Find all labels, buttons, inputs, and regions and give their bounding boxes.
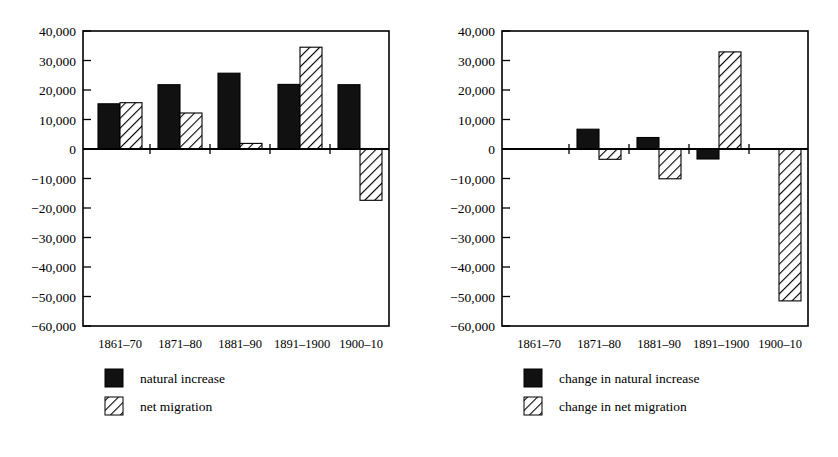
bar-hatch-1861-70 [120,103,142,149]
bar-solid-1881-90 [637,138,659,150]
y-tick-label: 20,000 [458,83,495,98]
y-tick-label: 0 [69,142,76,157]
bar-hatch-1891-1900 [300,47,322,149]
y-tick-label: 30,000 [39,54,76,69]
y-tick-label: 40,000 [458,24,495,39]
bars-change-natural-increase [577,129,719,159]
bar-hatch-1900-10 [360,149,382,200]
y-tick-label: 30,000 [458,54,495,69]
bar-hatch-1891-1900 [719,52,741,149]
x-tick-label-1881-90: 1881–90 [218,337,262,351]
legend-swatch-natural-increase [105,369,123,387]
y-tick-label: 20,000 [39,83,76,98]
y-tick-label: −20,000 [31,201,76,216]
y-tick-label: −10,000 [450,172,495,187]
legend-swatch-change-natural-increase [524,369,542,387]
y-tick-label: −10,000 [31,172,76,187]
bar-solid-1881-90 [218,73,240,149]
y-tick-label: −60,000 [450,319,495,334]
y-axis-labels: 40,000 30,000 20,000 10,000 0 −10,000 −2… [31,24,76,334]
legend-swatch-change-net-migration [524,397,542,415]
bar-hatch-1871-80 [599,149,621,159]
bar-solid-1861-70 [98,104,120,149]
x-tick-label-1871-80: 1871–80 [158,337,202,351]
x-tick-label-1900-10: 1900–10 [758,337,802,351]
y-axis-ticks [502,31,510,326]
bar-hatch-1871-80 [180,113,202,149]
bars-change-net-migration [599,52,801,301]
legend-label-natural-increase: natural increase [140,371,225,386]
x-tick-label-1861-70: 1861–70 [98,337,142,351]
legend-swatch-net-migration [105,397,123,415]
x-axis-labels: 1861–70 1871–80 1881–90 1891–1900 1900–1… [98,337,383,351]
y-tick-label: −30,000 [450,231,495,246]
y-tick-label: −50,000 [31,290,76,305]
x-tick-label-1871-80: 1871–80 [577,337,621,351]
left-chart-svg: 40,000 30,000 20,000 10,000 0 −10,000 −2… [0,0,419,457]
y-axis-labels: 40,000 30,000 20,000 10,000 0 −10,000 −2… [450,24,495,334]
legend-label-change-net-migration: change in net migration [559,399,687,414]
chart-panel-right: 40,000 30,000 20,000 10,000 0 −10,000 −2… [419,0,838,457]
y-tick-label: −40,000 [450,260,495,275]
legend-right: change in natural increase change in net… [524,369,700,415]
legend-left: natural increase net migration [105,369,225,415]
figure-container: 40,000 30,000 20,000 10,000 0 −10,000 −2… [0,0,838,457]
x-tick-label-1891-1900: 1891–1900 [274,337,330,351]
bar-solid-1871-80 [158,85,180,149]
y-tick-label: 10,000 [458,113,495,128]
plot-frame [502,31,808,326]
chart-panel-left: 40,000 30,000 20,000 10,000 0 −10,000 −2… [0,0,419,457]
legend-label-net-migration: net migration [140,399,213,414]
y-tick-label: 40,000 [39,24,76,39]
bar-solid-1891-1900 [278,84,300,149]
bar-hatch-1900-10 [779,149,801,301]
y-tick-label: 10,000 [39,113,76,128]
y-tick-label: 0 [488,142,495,157]
bar-solid-1891-1900 [697,149,719,159]
bar-hatch-1881-90 [659,149,681,179]
y-tick-label: −40,000 [31,260,76,275]
x-tick-label-1900-10: 1900–10 [339,337,383,351]
y-axis-ticks [83,31,91,326]
x-tick-label-1861-70: 1861–70 [517,337,561,351]
y-tick-label: −50,000 [450,290,495,305]
x-axis-labels: 1861–70 1871–80 1881–90 1891–1900 1900–1… [517,337,802,351]
legend-label-change-natural-increase: change in natural increase [559,371,700,386]
y-tick-label: −30,000 [31,231,76,246]
y-tick-label: −60,000 [31,319,76,334]
bar-solid-1871-80 [577,129,599,149]
x-tick-label-1891-1900: 1891–1900 [693,337,749,351]
x-tick-label-1881-90: 1881–90 [637,337,681,351]
y-tick-label: −20,000 [450,201,495,216]
bar-solid-1900-10 [338,85,360,149]
right-chart-svg: 40,000 30,000 20,000 10,000 0 −10,000 −2… [419,0,838,457]
